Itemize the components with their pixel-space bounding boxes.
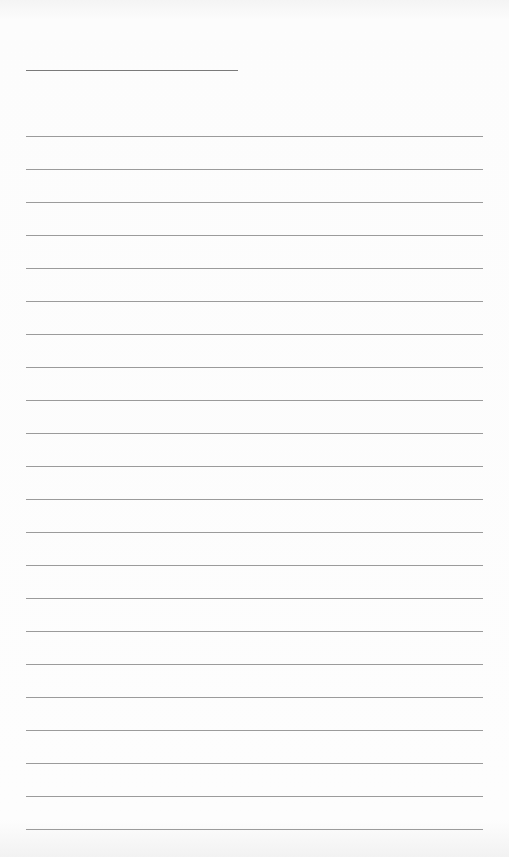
lined-paper-page	[0, 0, 509, 857]
ruled-line	[26, 697, 483, 698]
ruled-line	[26, 433, 483, 434]
ruled-lines	[26, 0, 483, 857]
ruled-line	[26, 499, 483, 500]
ruled-line	[26, 466, 483, 467]
ruled-line	[26, 664, 483, 665]
ruled-line	[26, 301, 483, 302]
ruled-line	[26, 829, 483, 830]
ruled-line	[26, 598, 483, 599]
ruled-line	[26, 796, 483, 797]
ruled-line	[26, 268, 483, 269]
ruled-line	[26, 169, 483, 170]
ruled-line	[26, 631, 483, 632]
ruled-line	[26, 565, 483, 566]
ruled-line	[26, 367, 483, 368]
ruled-line	[26, 235, 483, 236]
ruled-line	[26, 400, 483, 401]
ruled-line	[26, 334, 483, 335]
ruled-line	[26, 202, 483, 203]
ruled-line	[26, 763, 483, 764]
ruled-line	[26, 730, 483, 731]
ruled-line	[26, 532, 483, 533]
ruled-line	[26, 136, 483, 137]
